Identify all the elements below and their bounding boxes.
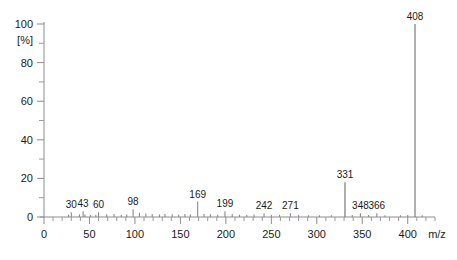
x-axis-tick-label: 250 bbox=[262, 228, 280, 240]
peak-label: 331 bbox=[337, 169, 354, 180]
y-axis-tick-label: 100 bbox=[15, 18, 33, 30]
x-axis-tick-label: 0 bbox=[41, 228, 47, 240]
y-axis-tick-label: 20 bbox=[21, 172, 33, 184]
peak-label: 169 bbox=[189, 189, 206, 200]
peak-label: 60 bbox=[93, 199, 105, 210]
y-axis-tick-label: 40 bbox=[21, 134, 33, 146]
x-axis-tick-label: 150 bbox=[171, 228, 189, 240]
y-axis-tick-label: 60 bbox=[21, 95, 33, 107]
peak-label: 366 bbox=[368, 200, 385, 211]
y-axis-tick-label: 0 bbox=[27, 211, 33, 223]
peak-label: 98 bbox=[128, 196, 140, 207]
x-axis-unit-label: m/z bbox=[428, 228, 446, 240]
peak-label: 30 bbox=[66, 199, 78, 210]
peak-label: 271 bbox=[282, 200, 299, 211]
y-axis-unit-label: [%] bbox=[17, 34, 33, 46]
peak-label: 348 bbox=[352, 200, 369, 211]
x-axis-tick-label: 400 bbox=[399, 228, 417, 240]
peak-label: 242 bbox=[256, 200, 273, 211]
y-axis-tick-label: 80 bbox=[21, 57, 33, 69]
mass-spectrum-chart: 020406080100[%]050100150200250300350400m… bbox=[0, 0, 457, 260]
x-axis-tick-label: 300 bbox=[308, 228, 326, 240]
x-axis-tick-label: 350 bbox=[353, 228, 371, 240]
x-axis-tick-label: 50 bbox=[83, 228, 95, 240]
peak-label: 408 bbox=[407, 11, 424, 22]
x-axis-tick-label: 200 bbox=[217, 228, 235, 240]
peak-label: 43 bbox=[78, 198, 90, 209]
x-axis-tick-label: 100 bbox=[126, 228, 144, 240]
peak-label: 199 bbox=[217, 198, 234, 209]
